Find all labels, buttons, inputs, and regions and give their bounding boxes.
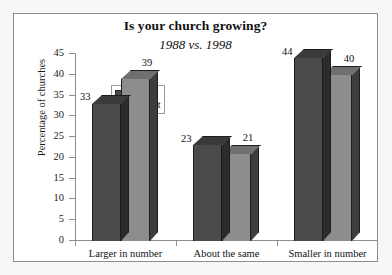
- y-tick-label-15: 15: [34, 173, 64, 184]
- plot-area: 333923214440: [75, 34, 378, 241]
- bar-group-1: 2321: [176, 34, 277, 241]
- y-tick-label-10: 10: [34, 193, 64, 204]
- bar-group-0: 3339: [75, 34, 176, 241]
- bar-value-label-largest-0: 33: [75, 92, 91, 103]
- bar-value-label-smallest-1: 21: [234, 133, 263, 144]
- bar-largest-1: [193, 145, 222, 241]
- x-category-label-2: Smaller in number: [277, 245, 378, 262]
- y-tick-label-45: 45: [34, 48, 64, 59]
- y-tick-label-5: 5: [34, 214, 64, 225]
- chart-figure: Is your church growing? 1988 vs. 1998 Pe…: [13, 13, 378, 262]
- bar-value-label-largest-2: 44: [277, 47, 293, 58]
- bar-side-face: [323, 49, 331, 241]
- y-tick-label-0: 0: [34, 235, 64, 246]
- bar-front-face: [294, 58, 323, 241]
- bar-side-face: [251, 145, 259, 241]
- bar-front-face: [92, 104, 121, 241]
- bar-value-label-smallest-0: 39: [133, 58, 162, 69]
- bar-largest-0: [92, 104, 121, 241]
- bar-side-face: [121, 95, 129, 241]
- bar-group-2: 4440: [277, 34, 378, 241]
- y-tick-label-30: 30: [34, 110, 64, 121]
- bar-side-face: [352, 66, 360, 241]
- bar-value-label-smallest-2: 40: [335, 54, 364, 65]
- bar-largest-2: [294, 58, 323, 241]
- y-tick-label-20: 20: [34, 152, 64, 163]
- x-axis-labels: Larger in numberAbout the sameSmaller in…: [75, 245, 378, 262]
- bar-value-label-largest-1: 23: [176, 134, 192, 145]
- x-category-label-0: Larger in number: [75, 245, 176, 262]
- bar-side-face: [150, 70, 158, 241]
- bar-side-face: [222, 137, 230, 241]
- bar-front-face: [193, 145, 222, 241]
- chart-title: Is your church growing?: [14, 18, 377, 34]
- y-tick-label-40: 40: [34, 69, 64, 80]
- y-tick-label-35: 35: [34, 90, 64, 101]
- x-category-label-1: About the same: [176, 245, 277, 262]
- y-tick-label-25: 25: [34, 131, 64, 142]
